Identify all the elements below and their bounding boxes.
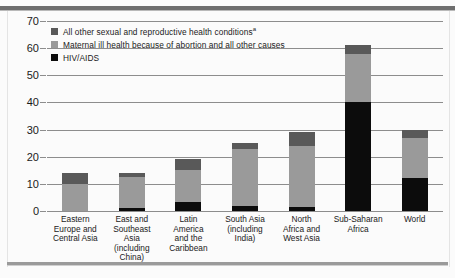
bar-segment bbox=[345, 102, 371, 211]
bar-segment bbox=[402, 130, 428, 138]
legend-swatch-other-icon bbox=[51, 28, 58, 35]
bar-group[interactable] bbox=[62, 173, 88, 211]
y-tick-dash-20 bbox=[40, 157, 46, 158]
legend-swatch-hiv-icon bbox=[51, 54, 58, 61]
y-tick-label-0: 0 bbox=[33, 205, 39, 217]
x-axis-label-line: China) bbox=[98, 253, 167, 263]
bar-group[interactable] bbox=[289, 132, 315, 211]
y-tick-label-10: 10 bbox=[27, 178, 39, 190]
bar-group[interactable] bbox=[175, 159, 201, 211]
y-tick-dash-40 bbox=[40, 102, 46, 103]
bar-segment bbox=[119, 173, 145, 177]
x-axis-labels: EasternEurope andCentral AsiaEast andSou… bbox=[47, 215, 443, 271]
bar-group[interactable] bbox=[345, 45, 371, 211]
x-axis-label-line: Caribbean bbox=[154, 244, 223, 254]
bar-group[interactable] bbox=[119, 173, 145, 211]
bar-segment bbox=[289, 207, 315, 211]
x-axis-label-line: Africa bbox=[324, 225, 393, 235]
legend-item-hiv: HIV/AIDS bbox=[51, 52, 351, 63]
y-tick-label-20: 20 bbox=[27, 151, 39, 163]
legend-label-maternal: Maternal ill health because of abortion … bbox=[63, 40, 285, 50]
bar-segment bbox=[175, 202, 201, 212]
legend-label-other: All other sexual and reproductive health… bbox=[63, 26, 256, 37]
legend-label-hiv: HIV/AIDS bbox=[63, 53, 99, 63]
y-tick-dash-50 bbox=[40, 75, 46, 76]
y-tick-label-70: 70 bbox=[27, 15, 39, 27]
y-tick-label-30: 30 bbox=[27, 124, 39, 136]
bar-segment bbox=[119, 208, 145, 211]
legend-item-other: All other sexual and reproductive health… bbox=[51, 26, 351, 37]
y-tick-dash-10 bbox=[40, 184, 46, 185]
y-tick-label-60: 60 bbox=[27, 42, 39, 54]
bar-segment bbox=[175, 159, 201, 170]
bar-segment bbox=[119, 177, 145, 208]
legend-swatch-maternal-icon bbox=[51, 41, 58, 48]
bar-segment bbox=[175, 170, 201, 201]
y-tick-dash-30 bbox=[40, 130, 46, 131]
bar-segment bbox=[232, 206, 258, 211]
bar-segment bbox=[402, 138, 428, 179]
chart-legend: All other sexual and reproductive health… bbox=[51, 26, 351, 65]
bar-group[interactable] bbox=[402, 130, 428, 211]
bar-segment bbox=[62, 173, 88, 184]
y-tick-label-50: 50 bbox=[27, 69, 39, 81]
bar-segment bbox=[289, 146, 315, 207]
bar-segment bbox=[402, 178, 428, 211]
y-tick-dash-60 bbox=[40, 48, 46, 49]
bar-segment bbox=[289, 132, 315, 146]
gridline-0: 0 bbox=[47, 211, 443, 212]
bar-segment bbox=[62, 184, 88, 211]
x-axis-label: World bbox=[380, 215, 449, 225]
bar-group[interactable] bbox=[232, 143, 258, 211]
x-axis-label-line: West Asia bbox=[267, 234, 336, 244]
y-tick-dash-70 bbox=[40, 21, 46, 22]
bar-segment bbox=[232, 143, 258, 148]
bar-segment bbox=[232, 149, 258, 206]
y-tick-label-40: 40 bbox=[27, 96, 39, 108]
y-tick-dash-0 bbox=[40, 211, 46, 212]
legend-item-maternal: Maternal ill health because of abortion … bbox=[51, 39, 351, 50]
chart-figure: 010203040506070 All other sexual and rep… bbox=[0, 0, 455, 278]
x-axis-label-line: World bbox=[380, 215, 449, 225]
